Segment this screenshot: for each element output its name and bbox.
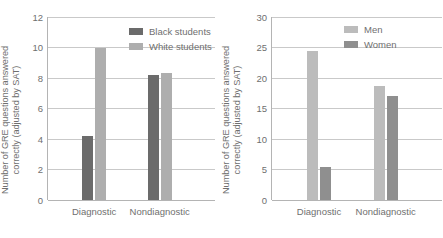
bar-diagnostic-white-students: [95, 48, 106, 201]
y-tick-label-6: 6: [38, 103, 48, 114]
y-tick-label-20: 20: [256, 72, 272, 83]
legend-label-women: Women: [364, 40, 397, 50]
legend-swatch-white-students: [129, 43, 143, 50]
y-tick-label-4: 4: [38, 133, 48, 144]
y-axis-title-right: Number of GRE questions answered correct…: [221, 25, 251, 215]
x-axis-label-nondiagnostic: Nondiagnostic: [356, 206, 416, 217]
y-tick-label-8: 8: [38, 72, 48, 83]
legend-swatch-black-students: [129, 28, 143, 35]
y-tick-label-30: 30: [256, 11, 272, 22]
bar-diagnostic-black-students: [82, 136, 93, 200]
legend-swatch-women: [344, 41, 358, 48]
legend-item-women: Women: [344, 37, 397, 52]
y-tick-label-2: 2: [38, 164, 48, 175]
y-tick-label-12: 12: [32, 11, 48, 22]
figure-two-bar-charts: Number of GRE questions answered correct…: [0, 0, 443, 238]
x-axis-label-diagnostic: Diagnostic: [297, 206, 341, 217]
legend-swatch-men: [344, 26, 358, 33]
bar-nondiagnostic-white-students: [161, 73, 172, 200]
x-axis-label-diagnostic: Diagnostic: [72, 206, 116, 217]
legend-label-men: Men: [364, 25, 382, 35]
legend-label-black-students: Black students: [149, 27, 211, 37]
bar-nondiagnostic-men: [374, 86, 385, 200]
y-tick-label-0: 0: [262, 194, 272, 205]
legend-left: Black students White students: [129, 24, 212, 54]
chart-panel-left: Number of GRE questions answered correct…: [0, 0, 221, 238]
legend-item-black-students: Black students: [129, 24, 212, 39]
y-tick-label-10: 10: [32, 42, 48, 53]
bar-diagnostic-men: [307, 51, 318, 200]
y-tick-label-5: 5: [262, 164, 272, 175]
legend-label-white-students: White students: [149, 42, 212, 52]
bar-diagnostic-women: [320, 167, 331, 200]
legend-item-men: Men: [344, 22, 397, 37]
bar-nondiagnostic-black-students: [148, 75, 159, 200]
y-tick-label-10: 10: [256, 133, 272, 144]
legend-item-white-students: White students: [129, 39, 212, 54]
legend-right: Men Women: [344, 22, 397, 52]
y-tick-label-15: 15: [256, 103, 272, 114]
y-tick-label-25: 25: [256, 42, 272, 53]
y-axis-title-left: Number of GRE questions answered correct…: [0, 25, 30, 215]
x-axis-label-nondiagnostic: Nondiagnostic: [130, 206, 190, 217]
bar-nondiagnostic-women: [387, 96, 398, 200]
chart-panel-right: Number of GRE questions answered correct…: [221, 0, 443, 238]
y-tick-label-0: 0: [38, 194, 48, 205]
